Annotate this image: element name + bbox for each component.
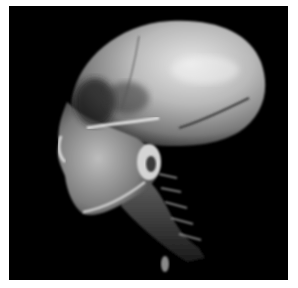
- ct-skull-image: [9, 6, 288, 280]
- skull-render: [9, 6, 288, 280]
